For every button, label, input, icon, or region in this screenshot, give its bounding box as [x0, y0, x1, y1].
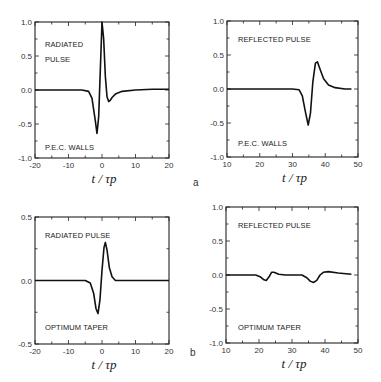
x-tick-label: 50	[354, 160, 363, 169]
annotation-label: RADIATED	[45, 40, 84, 49]
chart-bottom-right: 10203040501.00.50.0-0.5-1.0REFLECTED PUL…	[209, 203, 363, 371]
pulse-curve	[35, 242, 169, 313]
y-tick-label: -0.5	[18, 340, 32, 349]
x-tick-label: 20	[165, 347, 174, 356]
annotation-label: P.E.C. WALLS	[238, 139, 287, 148]
y-tick-label: 0.0	[21, 277, 33, 286]
annotation-label: PULSE	[45, 55, 70, 64]
annotation-label: REFLECTED PULSE	[238, 221, 311, 230]
panel-label-b: b	[190, 347, 196, 358]
y-tick-label: 0.5	[21, 213, 33, 222]
y-tick-label: 0.0	[213, 85, 225, 94]
x-tick-label: 20	[255, 160, 264, 169]
x-axis-label: t / τp	[92, 171, 117, 186]
x-tick-label: -10	[63, 347, 75, 356]
y-tick-label: 1.0	[21, 18, 33, 27]
x-tick-label: 10	[131, 161, 140, 170]
chart-bottom-left: -20-10010200.50.0-0.5RADIATED PULSEOPTIM…	[18, 213, 174, 372]
x-tick-label: -10	[63, 161, 75, 170]
x-tick-label: 0	[100, 161, 105, 170]
annotation-label: OPTIMUM TAPER	[238, 323, 302, 332]
y-tick-label: -0.5	[210, 119, 224, 128]
x-tick-label: 20	[165, 161, 174, 170]
x-tick-label: 0	[100, 347, 105, 356]
pulse-curve	[226, 272, 351, 283]
x-axis-label: t / τp	[92, 357, 117, 372]
figure-canvas: -20-10010201.00.50.0-0.5-1.0RADIATEDPULS…	[0, 0, 381, 382]
annotation-label: RADIATED PULSE	[45, 231, 110, 240]
y-tick-label: -1.0	[209, 339, 223, 348]
x-tick-label: 30	[288, 160, 297, 169]
y-tick-label: 0.5	[212, 237, 224, 246]
annotation-label: REFLECTED PULSE	[238, 35, 311, 44]
y-tick-label: 0.0	[212, 271, 224, 280]
y-tick-label: 0.0	[21, 86, 33, 95]
y-tick-label: 1.0	[213, 17, 225, 26]
annotation-label: OPTIMUM TAPER	[45, 323, 109, 332]
y-tick-label: 0.5	[21, 52, 33, 61]
x-axis-label: t / τp	[282, 170, 307, 185]
y-tick-label: -1.0	[18, 154, 32, 163]
x-tick-label: 20	[255, 346, 264, 355]
pulse-curve	[227, 62, 351, 125]
x-tick-label: 40	[321, 160, 330, 169]
y-tick-label: 1.0	[212, 203, 224, 212]
annotation-label: P.E.C. WALLS	[45, 143, 94, 152]
chart-top-left: -20-10010201.00.50.0-0.5-1.0RADIATEDPULS…	[18, 18, 174, 186]
x-tick-label: 10	[131, 347, 140, 356]
y-tick-label: -0.5	[209, 305, 223, 314]
chart-top-right: 10203040501.00.50.0-0.5-1.0REFLECTED PUL…	[210, 17, 363, 185]
y-tick-label: 0.5	[213, 51, 225, 60]
x-axis-label: t / τp	[282, 356, 307, 371]
y-tick-label: -0.5	[18, 120, 32, 129]
panel-label-a: a	[193, 177, 199, 188]
x-tick-label: 30	[288, 346, 297, 355]
x-tick-label: 50	[354, 346, 363, 355]
y-tick-label: -1.0	[210, 153, 224, 162]
x-tick-label: 40	[321, 346, 330, 355]
pulse-curve	[35, 22, 169, 134]
